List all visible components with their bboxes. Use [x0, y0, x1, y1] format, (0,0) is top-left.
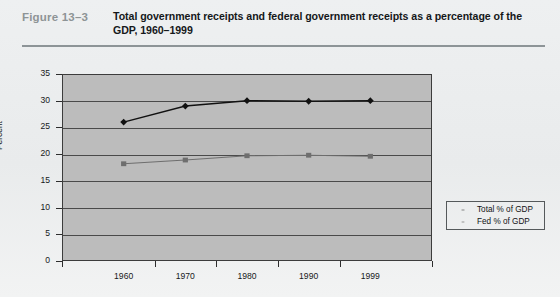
x-axis-tick — [278, 261, 279, 267]
chart-legend: Total % of GDP Fed % of GDP — [446, 201, 545, 230]
data-point-square — [183, 158, 188, 163]
data-point-diamond — [305, 98, 312, 105]
data-point-diamond — [367, 97, 374, 104]
figure-title: Total government receipts and federal go… — [113, 9, 545, 37]
figure-container: Figure 13–3 Total government receipts an… — [0, 0, 560, 297]
figure-header: Figure 13–3 Total government receipts an… — [0, 0, 560, 46]
data-point-diamond — [120, 119, 127, 126]
x-axis-tick — [155, 261, 156, 267]
x-axis-tick — [62, 261, 63, 267]
y-axis-tick-label: 30 — [24, 96, 50, 105]
y-axis-tick-label: 0 — [24, 256, 50, 265]
legend-label-fed: Fed % of GDP — [477, 217, 530, 227]
x-axis-tick — [340, 261, 341, 267]
x-axis-tick — [216, 261, 217, 267]
y-axis-tick-label: 25 — [24, 122, 50, 131]
x-axis-tick-label: 1960 — [104, 271, 144, 281]
legend-label-total: Total % of GDP — [477, 205, 533, 215]
x-axis-tick — [432, 261, 433, 267]
data-point-diamond — [244, 97, 251, 104]
y-axis-tick-label: 35 — [24, 69, 50, 78]
y-axis-tick-label: 15 — [24, 176, 50, 185]
x-axis-tick-label: 1990 — [289, 271, 329, 281]
y-axis-tick-label: 10 — [24, 203, 50, 212]
x-axis-tick-label: 1999 — [350, 271, 390, 281]
legend-marker-diamond-icon — [451, 209, 475, 211]
data-point-diamond — [182, 103, 189, 110]
x-axis-tick-label: 1980 — [227, 271, 267, 281]
y-axis-title: Percent — [0, 121, 4, 150]
data-point-square — [368, 154, 373, 159]
y-axis-tick-label: 20 — [24, 149, 50, 158]
legend-marker-square-icon — [451, 221, 475, 223]
x-axis-tick-label: 1970 — [165, 271, 205, 281]
chart: Percent 05101520253035 19601970198019901… — [0, 50, 560, 297]
y-axis-tick-label: 5 — [24, 229, 50, 238]
series-layer — [62, 74, 432, 261]
header-divider — [22, 45, 545, 47]
data-point-square — [121, 161, 126, 166]
data-point-square — [306, 153, 311, 158]
figure-number-label: Figure 13–3 — [22, 11, 88, 23]
data-point-square — [244, 153, 249, 158]
